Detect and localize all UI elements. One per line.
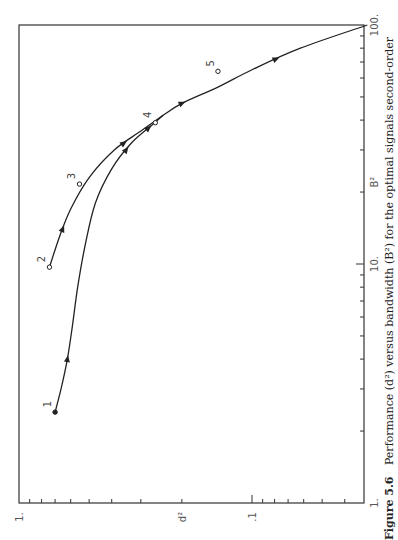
direction-arrow — [178, 99, 187, 107]
data-point-label-2: 2 — [36, 256, 47, 262]
performance-vs-bandwidth-chart: 12345 1..11.10.100.B²d² Figure 5.6 Perfo… — [0, 0, 398, 540]
direction-arrow — [272, 55, 281, 63]
b2-tick-label: 100. — [369, 14, 380, 36]
data-point-label-4: 4 — [142, 112, 153, 118]
d2-tick-label: .1 — [247, 512, 258, 522]
direction-arrow — [59, 224, 67, 233]
data-point-3 — [77, 182, 81, 186]
data-point-2 — [47, 265, 51, 269]
trajectory-curve — [49, 115, 163, 267]
figure-caption: Figure 5.6 Performance (d²) versus bandw… — [383, 36, 396, 540]
d2-axis-title: d² — [177, 512, 188, 522]
data-point-label-3: 3 — [66, 173, 77, 179]
b2-tick-label: 10. — [369, 256, 380, 272]
d2-tick-label: 1. — [14, 512, 25, 522]
b2-tick-label: 1. — [369, 498, 380, 508]
data-point-label-5: 5 — [205, 60, 216, 66]
trajectory-curve — [163, 25, 367, 115]
trajectory-curve — [55, 115, 163, 412]
data-point-1 — [53, 410, 57, 414]
b2-axis-title: B² — [369, 177, 380, 188]
data-point-5 — [216, 69, 220, 73]
figure-caption-text: Performance (d²) versus bandwidth (B²) f… — [383, 36, 396, 465]
data-point-label-1: 1 — [42, 401, 53, 407]
figure-caption-label: Figure 5.6 — [383, 476, 396, 540]
plot-frame — [19, 25, 364, 503]
data-point-4 — [153, 121, 157, 125]
